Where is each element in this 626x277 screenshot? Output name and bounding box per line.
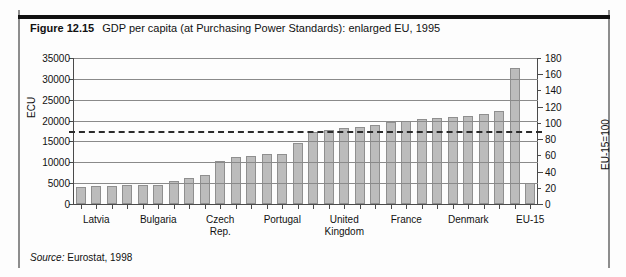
y-tick-label-left: 0 [24,199,70,210]
x-tick [468,204,469,209]
y-tick-right [537,123,541,124]
source-value: Eurostat, 1998 [64,252,132,263]
figure-number: Figure 12.15 [30,22,94,34]
y-tick-label-left: 30000 [24,73,70,84]
x-tick [158,204,159,209]
y-tick-right [537,58,541,59]
x-tick [484,204,485,209]
x-tick [205,204,206,209]
gridline [73,100,538,101]
x-tick [375,204,376,209]
gridline [73,162,538,163]
x-tick [530,204,531,209]
reference-line-eu15 [69,131,542,133]
y-tick-label-left: 5000 [24,178,70,189]
y-tick-label-right: 80 [545,134,556,145]
x-category-label: EU-15 [516,214,544,226]
bar [339,128,349,204]
x-tick [267,204,268,209]
x-tick [236,204,237,209]
y-tick-right [537,139,543,140]
gridline [73,141,538,142]
x-tick [391,204,392,209]
x-tick [329,204,330,209]
y-tick-right [537,107,543,108]
x-tick [515,204,516,209]
y-tick-right [537,204,543,205]
bar [355,127,365,204]
x-tick [143,204,144,209]
y-tick-label-left: 25000 [24,94,70,105]
bar [231,157,241,204]
gridline [73,183,538,184]
gridline [73,58,538,59]
bar [169,181,179,204]
bar [138,185,148,204]
bar [184,178,194,204]
y-tick-right [537,90,541,91]
bar [293,143,303,204]
y-axis-title-right: EU-15=100 [600,119,611,170]
x-tick [220,204,221,209]
x-tick [499,204,500,209]
y-tick-label-right: 100 [545,117,562,128]
x-tick [313,204,314,209]
source-note: Source: Eurostat, 1998 [30,252,132,263]
y-tick-label-left: 20000 [24,115,70,126]
bar [153,185,163,204]
bar [246,156,256,204]
x-tick [453,204,454,209]
x-tick [127,204,128,209]
bar [91,186,101,204]
bar [525,183,535,204]
y-tick-label-right: 20 [545,182,556,193]
y-tick-label-right: 140 [545,85,562,96]
bar [479,114,489,204]
x-tick [344,204,345,209]
x-category-label: Denmark [448,214,489,226]
x-tick [251,204,252,209]
x-tick [437,204,438,209]
gridline [73,79,538,80]
y-tick-label-left: 35000 [24,53,70,64]
bar [107,186,117,204]
x-category-label: Latvia [83,214,110,226]
source-label: Source: [30,252,64,263]
y-tick-right [537,188,541,189]
bar [277,154,287,204]
y-tick-label-left: 10000 [24,157,70,168]
y-tick-right [537,172,543,173]
x-category-label: CzechRep. [206,214,234,238]
figure-left-rule [18,10,20,268]
x-tick [81,204,82,209]
plot-area: 0500010000150002000025000300003500002040… [73,58,538,204]
bar [494,111,504,204]
x-tick [189,204,190,209]
x-tick [96,204,97,209]
y-tick-label-right: 0 [545,199,551,210]
bar [370,125,380,204]
x-tick [298,204,299,209]
x-tick [406,204,407,209]
y-tick-label-right: 160 [545,69,562,80]
x-category-label: Portugal [264,214,301,226]
bar [122,185,132,204]
figure-top-rule [18,15,610,19]
x-tick [422,204,423,209]
y-tick-label-right: 60 [545,150,556,161]
bar [308,132,318,204]
figure-caption-text: GDP per capita (at Purchasing Power Stan… [102,22,440,34]
y-tick-label-right: 120 [545,101,562,112]
x-category-label: France [391,214,422,226]
x-category-label: Bulgaria [140,214,177,226]
figure-container: Figure 12.15GDP per capita (at Purchasin… [0,0,626,277]
y-tick-right [537,155,541,156]
y-tick-label-right: 40 [545,166,556,177]
y-tick-label-left: 15000 [24,136,70,147]
bar [76,187,86,204]
x-category-label: UnitedKingdom [325,214,364,238]
y-tick-label-right: 180 [545,53,562,64]
x-tick [282,204,283,209]
figure-caption: Figure 12.15GDP per capita (at Purchasin… [30,22,440,34]
y-tick-right [537,74,543,75]
